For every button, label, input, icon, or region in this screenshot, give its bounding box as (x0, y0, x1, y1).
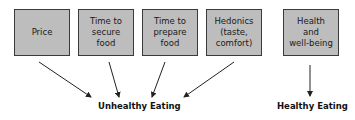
arrow-secure-to-unhealthy (109, 62, 119, 97)
outcome-healthy-eating: Healthy Eating (277, 101, 348, 111)
outcome-unhealthy-eating: Unhealthy Eating (98, 101, 181, 111)
arrow-price-to-unhealthy (39, 62, 91, 97)
arrow-hedonics-to-unhealthy (184, 62, 234, 97)
arrow-prepare-to-unhealthy (152, 62, 165, 97)
